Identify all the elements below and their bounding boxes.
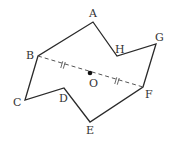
octagon-diagram: AHGFEDCB O xyxy=(0,0,176,141)
label-c: C xyxy=(13,96,21,109)
label-g: G xyxy=(155,31,164,44)
tick-mark xyxy=(63,62,65,69)
label-a: A xyxy=(88,7,98,20)
label-h: H xyxy=(115,43,125,56)
center-point-o xyxy=(88,71,93,76)
label-d: D xyxy=(59,92,68,105)
label-b: B xyxy=(26,49,34,62)
label-f: F xyxy=(145,88,153,101)
label-e: E xyxy=(86,124,94,137)
label-o: O xyxy=(89,77,98,90)
tick-mark xyxy=(61,61,63,68)
tick-mark xyxy=(117,78,119,85)
